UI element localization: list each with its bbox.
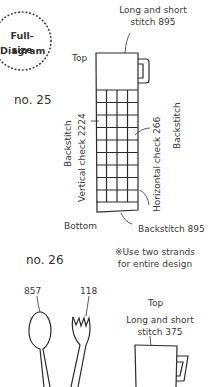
fork-outline <box>71 317 90 387</box>
callout-26-line-1: Long and short <box>125 315 195 326</box>
fork-color-label: 118 <box>80 286 97 297</box>
label-top-25: Top <box>72 53 87 64</box>
right-label-backstitch: Backstitch <box>172 102 183 149</box>
callout-26-line-2: stitch 375 <box>125 327 195 338</box>
design-number-25: no. 25 <box>14 93 52 107</box>
spoon-color-label: 857 <box>24 286 41 297</box>
callout-top-line-1: Long and short <box>108 5 198 16</box>
note-line-2: for entire design <box>105 259 205 270</box>
callout-leaders-25 <box>91 33 150 224</box>
mug-25-outline <box>96 53 149 212</box>
left-label-vertical-check: Vertical check 2224 <box>77 113 88 202</box>
design-number-26: no. 26 <box>26 253 64 267</box>
callout-leaders-26 <box>37 296 89 316</box>
spoon-outline <box>29 312 51 387</box>
callout-bottom-backstitch: Backstitch 895 <box>138 224 205 235</box>
full-size-badge: Full-size Diagram <box>0 5 58 71</box>
left-label-backstitch: Backstitch <box>63 120 74 167</box>
mug-26-outline <box>135 345 188 387</box>
callout-top-line-2: stitch 895 <box>108 17 198 28</box>
badge-line-2: Diagram <box>0 44 44 58</box>
note-line-1: ※Use two strands <box>105 247 205 258</box>
label-bottom-25: Bottom <box>64 221 97 232</box>
right-label-horizontal-check: Horizontal check 266 <box>152 117 163 212</box>
label-top-26: Top <box>148 298 163 309</box>
